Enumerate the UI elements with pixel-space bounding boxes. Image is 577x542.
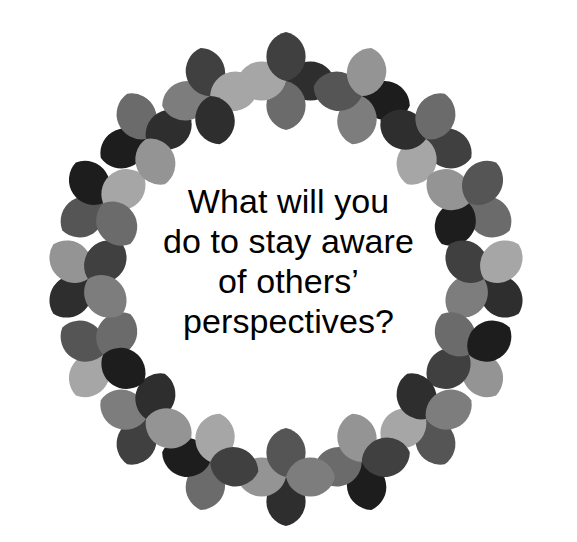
quote-line-1: What will you [0, 181, 577, 221]
quote-line-3: of others’ [0, 261, 577, 301]
quote-line-2: do to stay aware [0, 221, 577, 261]
quote-graphic-canvas: What will you do to stay aware of others… [0, 0, 577, 542]
quote-text-block: What will you do to stay aware of others… [0, 181, 577, 341]
quote-line-4: perspectives? [0, 301, 577, 341]
rosette-petal [101, 348, 145, 389]
